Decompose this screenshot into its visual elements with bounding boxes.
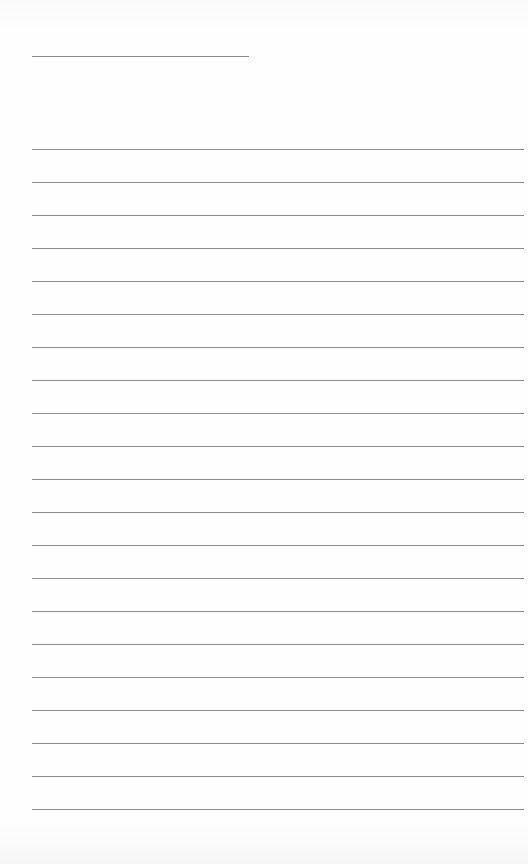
ruled-line [32,380,524,381]
header-title-line [32,56,249,57]
ruled-line [32,314,524,315]
ruled-line [32,149,524,150]
ruled-line [32,512,524,513]
ruled-line [32,809,524,810]
lined-paper-page [0,0,528,864]
ruled-line [32,776,524,777]
ruled-line [32,248,524,249]
ruled-line [32,611,524,612]
ruled-line [32,578,524,579]
ruled-line [32,644,524,645]
ruled-line [32,743,524,744]
ruled-line [32,479,524,480]
ruled-line [32,347,524,348]
ruled-line [32,281,524,282]
ruled-line [32,182,524,183]
ruled-line [32,446,524,447]
ruled-line [32,215,524,216]
ruled-line [32,677,524,678]
ruled-line [32,545,524,546]
ruled-line [32,413,524,414]
ruled-line [32,710,524,711]
